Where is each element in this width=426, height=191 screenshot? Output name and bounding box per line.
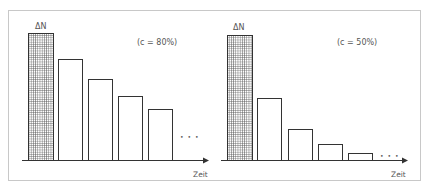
left-ellipsis: • • • [180,133,199,140]
left-xlabel: Zeit [193,170,208,179]
right-bar-1-hatched [228,36,253,161]
right-chart: ΔN (c = 50%) • • • Zeit [221,23,408,179]
left-bar-1-hatched [29,34,54,161]
left-chart: ΔN (c = 80%) • • • Zeit [22,22,209,179]
left-bar-2 [59,60,83,161]
decay-diagram: ΔN (c = 80%) • • • Zeit ΔN (c = 50%) • •… [0,0,426,191]
right-annotation: (c = 50%) [337,38,377,47]
left-ylabel: ΔN [35,22,46,31]
right-axis-arrow-icon [402,158,408,164]
left-annotation: (c = 80%) [137,38,177,47]
right-xlabel: Zeit [391,170,406,179]
left-bar-5 [149,110,173,161]
right-ellipsis: • • • [380,152,399,159]
right-ylabel: ΔN [233,23,244,32]
right-bar-5 [349,154,373,161]
left-axis-arrow-icon [203,158,209,164]
right-bar-2 [258,99,282,161]
right-bar-4 [319,145,343,161]
left-bar-4 [119,97,143,161]
left-bar-3 [89,80,113,161]
right-bar-3 [289,130,313,161]
